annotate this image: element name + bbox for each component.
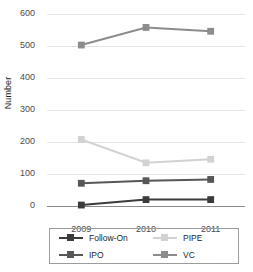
legend-label: IPO	[89, 250, 104, 260]
legend-marker-icon	[59, 250, 83, 259]
y-axis-title: Number	[3, 61, 13, 125]
legend-marker-icon	[153, 233, 177, 242]
x-axis-line	[47, 206, 245, 207]
legend-label: PIPE	[183, 233, 202, 243]
data-point-marker	[143, 24, 150, 31]
y-axis-tick-label: 200	[0, 137, 35, 146]
data-point-marker	[78, 42, 85, 49]
data-point-marker	[78, 202, 85, 209]
data-point-marker	[78, 136, 85, 143]
legend-marker-icon	[59, 233, 83, 242]
line-chart: Number 6005004003002001000 200920102011 …	[0, 0, 253, 272]
y-axis-tick-label: 400	[0, 73, 35, 82]
legend-item[interactable]: PIPE	[144, 233, 238, 243]
legend-item[interactable]: VC	[144, 250, 238, 260]
y-axis-tick-label: 500	[0, 41, 35, 50]
y-axis-tick-label: 0	[0, 201, 35, 210]
y-axis-tick-label: 100	[0, 169, 35, 178]
plot-area: 6005004003002001000 200920102011	[47, 14, 245, 206]
data-point-marker	[207, 196, 214, 203]
data-point-marker	[143, 196, 150, 203]
data-point-marker	[207, 156, 214, 163]
data-point-marker	[143, 159, 150, 166]
data-point-marker	[207, 28, 214, 35]
legend-item[interactable]: IPO	[50, 250, 144, 260]
legend-item[interactable]: Follow-On	[50, 233, 144, 243]
legend-marker-icon	[153, 250, 177, 259]
data-point-marker	[78, 180, 85, 187]
legend: Follow-OnPIPEIPOVC	[49, 228, 239, 264]
data-point-marker	[143, 177, 150, 184]
legend-label: VC	[183, 250, 195, 260]
series-layer	[47, 14, 245, 206]
y-axis-tick-label: 600	[0, 9, 35, 18]
legend-label: Follow-On	[89, 233, 128, 243]
series-line	[81, 139, 210, 162]
y-axis-tick-label: 300	[0, 105, 35, 114]
data-point-marker	[207, 176, 214, 183]
